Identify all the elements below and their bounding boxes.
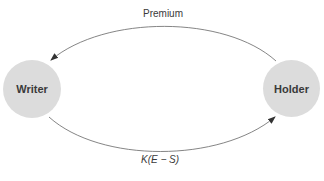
option-payoff-diagram: Writer Holder Premium K(E − S) (0, 0, 324, 181)
writer-node: Writer (3, 60, 61, 118)
payoff-label: K(E − S) (141, 154, 179, 165)
payoff-arrow (49, 117, 275, 152)
premium-label: Premium (143, 8, 183, 19)
holder-label: Holder (274, 83, 309, 95)
holder-node: Holder (263, 60, 320, 117)
premium-arrow (51, 26, 276, 61)
writer-label: Writer (16, 83, 48, 95)
